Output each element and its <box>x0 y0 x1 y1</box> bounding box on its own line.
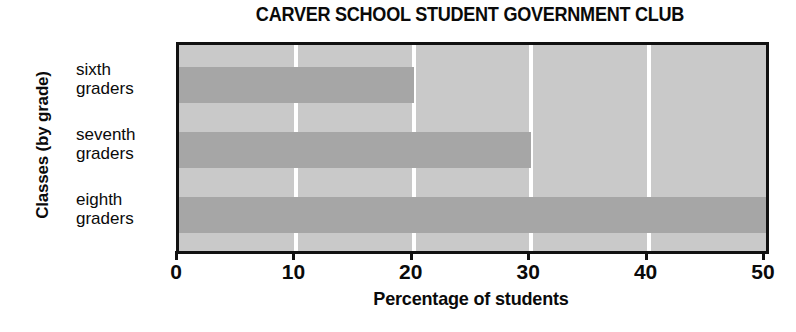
x-tick-label-40: 40 <box>616 260 676 284</box>
x-tick-label-30: 30 <box>498 260 558 284</box>
category-label-line2: graders <box>76 144 172 163</box>
category-label-line1: eighth <box>76 190 172 209</box>
bar-chart: CARVER SCHOOL STUDENT GOVERNMENT CLUB Cl… <box>0 0 796 332</box>
x-axis-line <box>176 251 766 254</box>
x-tick-label-50: 50 <box>733 260 793 284</box>
x-tick-50 <box>762 251 765 260</box>
x-tick-label-0: 0 <box>146 260 206 284</box>
x-tick-30 <box>527 251 530 260</box>
bar-eighth-graders <box>179 197 766 233</box>
chart-title: CARVER SCHOOL STUDENT GOVERNMENT CLUB <box>217 2 723 26</box>
y-axis-title: Classes (by grade) <box>33 35 53 255</box>
x-tick-40 <box>645 251 648 260</box>
category-label-seventh-graders: seventh graders <box>76 125 172 163</box>
x-tick-label-10: 10 <box>263 260 323 284</box>
category-label-sixth-graders: sixth graders <box>76 60 172 98</box>
x-tick-label-20: 20 <box>381 260 441 284</box>
category-label-line1: seventh <box>76 125 172 144</box>
bar-sixth-graders <box>179 67 414 103</box>
x-tick-0 <box>175 251 178 260</box>
plot-inner <box>179 45 766 251</box>
x-tick-10 <box>292 251 295 260</box>
category-label-line1: sixth <box>76 60 172 79</box>
x-tick-20 <box>410 251 413 260</box>
category-label-line2: graders <box>76 209 172 228</box>
plot-area <box>176 42 769 254</box>
category-label-line2: graders <box>76 79 172 98</box>
bar-seventh-graders <box>179 132 531 168</box>
category-label-eighth-graders: eighth graders <box>76 190 172 228</box>
x-axis-title: Percentage of students <box>191 288 752 310</box>
